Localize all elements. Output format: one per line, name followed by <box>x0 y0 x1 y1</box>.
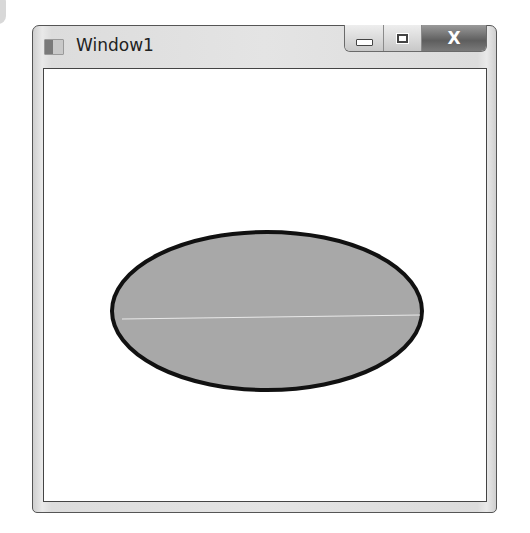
close-icon: X <box>447 28 460 48</box>
client-area <box>43 68 487 502</box>
window-title: Window1 <box>76 35 154 55</box>
maximize-icon <box>397 34 408 43</box>
ellipse-shape <box>44 69 488 503</box>
caption-buttons: X <box>344 25 487 52</box>
background-fragment <box>0 0 6 24</box>
minimize-icon <box>356 39 373 46</box>
app-window-icon[interactable] <box>44 39 64 55</box>
maximize-button[interactable] <box>384 25 422 51</box>
close-button[interactable]: X <box>422 25 486 51</box>
title-bar[interactable]: Window1 X <box>33 26 496 68</box>
window: Window1 X <box>32 25 497 513</box>
minimize-button[interactable] <box>345 25 384 51</box>
